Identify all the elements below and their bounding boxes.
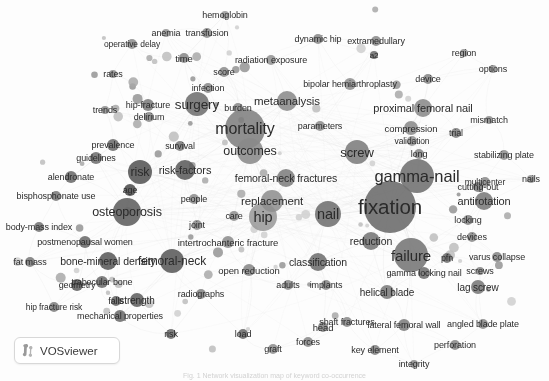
figure-caption: Fig. 1 Network visualization map of keyw… <box>0 372 549 381</box>
vosviewer-logo-badge[interactable]: VOSviewer <box>14 337 120 364</box>
vosviewer-logo-label: VOSviewer <box>40 345 98 357</box>
network-links-layer <box>0 0 549 381</box>
vosviewer-mark-icon <box>22 343 35 358</box>
vosviewer-network-canvas[interactable]: fixationgamma-nailmortalityfailurenailhi… <box>0 0 549 381</box>
